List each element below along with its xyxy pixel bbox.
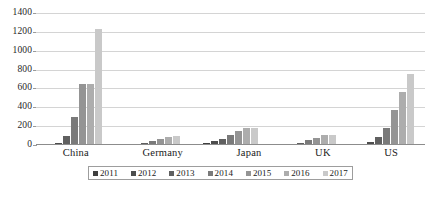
legend-label: 2015: [253, 169, 271, 178]
y-axis-tick-label: 1400: [0, 8, 32, 18]
bar-group: [281, 13, 336, 145]
bar[interactable]: [71, 117, 78, 145]
bar[interactable]: [383, 128, 390, 145]
bar[interactable]: [87, 84, 94, 145]
legend-item[interactable]: 2015: [246, 169, 271, 178]
y-axis-tick-mark: [33, 145, 37, 146]
legend-label: 2014: [215, 169, 233, 178]
y-axis-tick-label: 600: [0, 83, 32, 93]
category-label: UK: [315, 147, 331, 159]
bar-group: [203, 13, 258, 145]
legend-item[interactable]: 2016: [284, 169, 309, 178]
y-axis-tick-label: 1000: [0, 46, 32, 56]
legend-item[interactable]: 2012: [131, 169, 156, 178]
legend-item[interactable]: 2014: [208, 169, 233, 178]
bar-group: [47, 13, 102, 145]
category-label: China: [63, 147, 89, 159]
legend-swatch-icon: [169, 171, 174, 176]
plot-area: [36, 13, 425, 145]
bar[interactable]: [251, 128, 258, 145]
bar[interactable]: [243, 128, 250, 145]
legend-label: 2013: [176, 169, 194, 178]
bar[interactable]: [391, 110, 398, 145]
caption-sliver: [64, 190, 364, 198]
category-label: Germany: [143, 147, 183, 159]
bar-groups: [36, 13, 425, 145]
y-axis-tick-label: 200: [0, 121, 32, 131]
legend-item[interactable]: 2017: [323, 169, 348, 178]
legend[interactable]: 2011201220132014201520162017: [88, 166, 353, 180]
legend-swatch-icon: [284, 171, 289, 176]
bar[interactable]: [79, 84, 86, 145]
bar-group: [125, 13, 180, 145]
category-axis-labels: ChinaGermanyJapanUKUS: [36, 147, 425, 163]
bar[interactable]: [399, 92, 406, 145]
legend-item[interactable]: 2011: [93, 169, 118, 178]
legend-item[interactable]: 2013: [169, 169, 194, 178]
bar[interactable]: [407, 74, 414, 145]
legend-swatch-icon: [131, 171, 136, 176]
bar-chart: 1400120010008006004002000 ChinaGermanyJa…: [0, 0, 440, 199]
legend-swatch-icon: [93, 171, 98, 176]
y-axis-tick-label: 1200: [0, 27, 32, 37]
legend-label: 2011: [100, 169, 118, 178]
legend-label: 2016: [291, 169, 309, 178]
legend-label: 2012: [138, 169, 156, 178]
bar-group: [359, 13, 414, 145]
legend-swatch-icon: [323, 171, 328, 176]
legend-swatch-icon: [246, 171, 251, 176]
bar[interactable]: [95, 29, 102, 145]
y-axis-tick-label: 400: [0, 102, 32, 112]
legend-label: 2017: [330, 169, 348, 178]
legend-swatch-icon: [208, 171, 213, 176]
x-axis-line: [36, 144, 425, 145]
y-axis-tick-label: 800: [0, 65, 32, 75]
y-axis-tick-label: 0: [0, 140, 32, 150]
category-label: Japan: [237, 147, 262, 159]
category-label: US: [384, 147, 398, 159]
